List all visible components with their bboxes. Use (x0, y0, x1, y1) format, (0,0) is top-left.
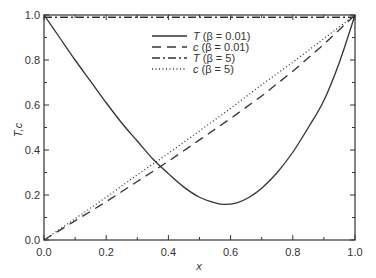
line-chart: 0.00.20.40.60.81.0 0.00.20.40.60.81.0 x … (0, 0, 376, 278)
x-axis-label: x (195, 260, 202, 272)
x-tick-label: 1.0 (347, 246, 362, 258)
y-tick-label: 0.2 (25, 189, 40, 201)
x-tick-label: 0.2 (99, 246, 114, 258)
legend: T (β = 0.01)c (β = 0.01)T (β = 5)c (β = … (152, 30, 250, 75)
y-tick-label: 0.4 (25, 144, 40, 156)
y-tick-label: 1.0 (25, 9, 40, 21)
legend-label: c (β = 5) (193, 63, 234, 75)
y-axis-ticks: 0.00.20.40.60.81.0 (25, 9, 355, 246)
x-tick-label: 0.8 (285, 246, 300, 258)
y-tick-label: 0.6 (25, 99, 40, 111)
y-tick-label: 0.8 (25, 54, 40, 66)
x-tick-label: 0.6 (223, 246, 238, 258)
x-tick-label: 0.0 (36, 246, 51, 258)
x-tick-label: 0.4 (161, 246, 176, 258)
y-axis-label: T,c (12, 122, 24, 137)
y-tick-label: 0.0 (25, 234, 40, 246)
